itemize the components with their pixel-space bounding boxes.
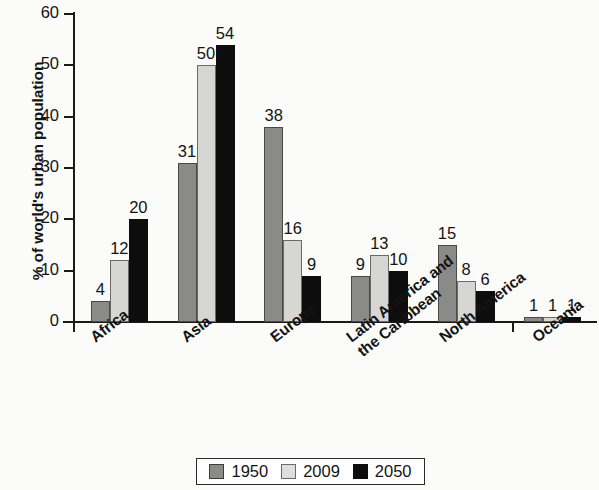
- bar-asia-1950: [178, 163, 197, 322]
- y-tick-label: 40: [19, 106, 59, 125]
- bar-value-label: 10: [383, 250, 414, 269]
- x-axis-origin-tick: [73, 322, 75, 332]
- chart-legend: 1950 2009 2050: [196, 458, 425, 485]
- bar-chart: % of world's urban population 0102030405…: [0, 0, 599, 490]
- y-tick-label: 50: [19, 54, 59, 73]
- legend-label-2009: 2009: [303, 462, 340, 481]
- bar-asia-2009: [197, 65, 216, 322]
- y-tick-label: 30: [19, 157, 59, 176]
- bar-value-label: 15: [432, 224, 463, 243]
- legend-item-1950: 1950: [209, 462, 268, 481]
- bar-value-label: 54: [210, 24, 241, 43]
- legend-item-2050: 2050: [353, 462, 412, 481]
- y-tick-label: 10: [19, 260, 59, 279]
- y-tick-label: 20: [19, 208, 59, 227]
- series-2009-swatch: [281, 464, 296, 479]
- bar-value-label: 38: [258, 106, 289, 125]
- legend-label-2050: 2050: [375, 462, 412, 481]
- x-tick: [512, 322, 514, 332]
- bar-oceania-1950: [524, 317, 543, 322]
- legend-label-1950: 1950: [231, 462, 268, 481]
- series-2050-swatch: [353, 464, 368, 479]
- legend-item-2009: 2009: [281, 462, 340, 481]
- bar-value-label: 20: [123, 198, 154, 217]
- y-tick-label: 0: [19, 311, 59, 330]
- bar-asia-2050: [216, 45, 235, 322]
- bar-africa-2050: [129, 219, 148, 322]
- y-tick-label: 60: [19, 3, 59, 22]
- bar-value-label: 9: [296, 255, 327, 274]
- bar-value-label: 16: [277, 219, 308, 238]
- series-1950-swatch: [209, 464, 224, 479]
